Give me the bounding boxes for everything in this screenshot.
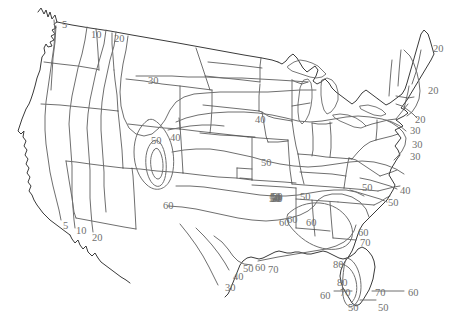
west-coast-outline <box>18 8 70 235</box>
map-svg <box>0 0 460 321</box>
contour-label-20: 20 <box>428 86 439 97</box>
state-border-ia-il <box>292 121 298 154</box>
state-border-sd-mn <box>259 84 260 111</box>
contour-label-50: 50 <box>261 158 272 169</box>
state-border-co-ks-w <box>200 133 255 137</box>
state-border-nd-sd-n <box>208 62 262 68</box>
state-border-il-in <box>312 123 313 156</box>
contour-label-40: 40 <box>170 133 181 144</box>
state-border-mi-in-oh <box>312 123 332 124</box>
contour-line-60-closed-inner2 <box>151 148 163 179</box>
contour-label-50: 50 <box>243 264 254 275</box>
state-border-ca-az <box>66 161 76 218</box>
contour-label-50: 50 <box>348 303 359 314</box>
state-border-co-nm <box>183 173 252 180</box>
state-border-vt-nh <box>398 50 401 86</box>
state-border-or-ca <box>41 104 118 111</box>
contour-line-20b-west <box>101 32 116 212</box>
contour-label-50: 50 <box>378 303 389 314</box>
contour-label-30: 30 <box>412 140 423 151</box>
contour-label-10: 10 <box>91 30 102 41</box>
state-border-nv-az-ca <box>66 161 123 168</box>
state-border-ga-fl <box>333 238 356 240</box>
contour-label-50: 50 <box>362 183 373 194</box>
contour-label-40: 40 <box>233 272 244 283</box>
contour-line-70-gulfcoast <box>258 225 356 261</box>
contour-label-70: 70 <box>360 238 371 249</box>
contour-line-30-texas <box>180 224 218 285</box>
state-border-nd-mt <box>196 48 210 90</box>
national-outline-group <box>18 8 434 306</box>
contour-label-80: 80 <box>333 260 344 271</box>
contour-map-figure: 5102030504060405050603040506070505050505… <box>0 0 460 321</box>
state-border-al-ga <box>330 202 333 238</box>
state-border-ky-tn <box>300 172 346 176</box>
state-border-va-nc-e <box>380 170 397 176</box>
state-border-sd-ne <box>203 105 259 111</box>
contour-label-20: 20 <box>433 44 444 55</box>
contour-label-50: 50 <box>270 192 281 203</box>
state-border-wv-va <box>349 158 380 176</box>
contour-label-60: 60 <box>279 218 290 229</box>
contour-label-20: 20 <box>415 115 426 126</box>
northern-border-outline <box>57 22 278 62</box>
contour-label-60: 60 <box>255 263 266 274</box>
state-border-ia-mo <box>268 141 288 142</box>
state-border-wi-mi <box>292 103 310 106</box>
contour-label-60: 60 <box>306 218 317 229</box>
state-border-il-in-oh <box>298 154 352 159</box>
state-border-ne-ks <box>248 137 288 140</box>
state-border-ks-mo <box>288 140 292 184</box>
state-border-nv-ut <box>118 111 123 168</box>
contour-line-20-west <box>87 30 106 232</box>
contour-label-5: 5 <box>63 221 68 232</box>
contour-label-10: 10 <box>76 226 87 237</box>
state-border-panhandle <box>237 168 252 169</box>
contour-label-20: 20 <box>92 233 103 244</box>
contour-label-30: 30 <box>410 126 421 137</box>
state-border-ok-ks-s <box>252 185 296 188</box>
contour-label-30: 30 <box>410 152 421 163</box>
contour-line-40-greatplains <box>168 125 224 130</box>
contour-label-50: 50 <box>388 198 399 209</box>
state-border-id-nv <box>114 70 118 111</box>
contour-label-30: 30 <box>148 76 159 87</box>
state-border-ok-tx-n <box>252 180 296 183</box>
contour-label-70: 70 <box>375 288 386 299</box>
contour-line-50-texas <box>214 236 252 265</box>
state-border-nd-mn <box>260 58 261 82</box>
state-border-ny-vt <box>389 60 392 96</box>
contour-label-5: 5 <box>62 20 67 31</box>
state-border-in-oh <box>330 122 331 157</box>
lake-superior-outline <box>288 60 326 78</box>
contour-label-60: 60 <box>320 291 331 302</box>
lake-ontario-outline <box>360 105 386 116</box>
contour-line-5-nw <box>45 20 61 220</box>
contour-line-30-label-seg <box>136 76 308 82</box>
contour-label-70: 70 <box>340 288 351 299</box>
contour-label-40: 40 <box>400 186 411 197</box>
contour-label-50: 50 <box>151 136 162 147</box>
contour-label-50: 50 <box>300 192 311 203</box>
lake-michigan-outline <box>298 79 312 124</box>
contour-label-60: 60 <box>408 288 419 299</box>
state-border-il-mo-s <box>298 154 304 184</box>
contour-label-40: 40 <box>255 115 266 126</box>
state-border-ga-sc <box>338 202 374 205</box>
state-border-oh-pa-wv <box>352 140 376 159</box>
state-border-mt-wy <box>126 79 212 90</box>
great-lakes-border-outline <box>278 54 378 104</box>
state-boundaries-group <box>41 26 421 240</box>
state-border-sd-mt <box>210 90 212 133</box>
state-border-pa-md <box>376 134 398 140</box>
contour-label-60: 60 <box>163 201 174 212</box>
state-border-az-nm <box>132 168 136 229</box>
contour-label-30: 30 <box>225 283 236 294</box>
northeast-outline <box>340 30 434 306</box>
state-border-mo-ar-tn <box>292 184 344 188</box>
contour-line-50-midcontinent <box>172 149 404 174</box>
contour-label-70: 70 <box>268 265 279 276</box>
contour-label-20: 20 <box>114 34 125 45</box>
state-border-wy-ut <box>128 124 180 129</box>
contour-lines-group <box>45 20 420 307</box>
